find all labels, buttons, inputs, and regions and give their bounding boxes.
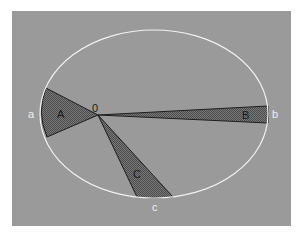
- point-b-label: b: [272, 108, 278, 120]
- sector-c-label: C: [133, 168, 141, 180]
- sector-a-label: A: [57, 108, 65, 120]
- sector-b-label: B: [242, 109, 249, 121]
- sector-c: [98, 115, 173, 198]
- point-a-label: a: [28, 108, 35, 120]
- point-c-label: c: [152, 201, 158, 213]
- kepler-orbit-diagram: 0 A B C a b c: [0, 0, 304, 235]
- focus-label: 0: [92, 102, 98, 114]
- sector-a: [42, 88, 98, 137]
